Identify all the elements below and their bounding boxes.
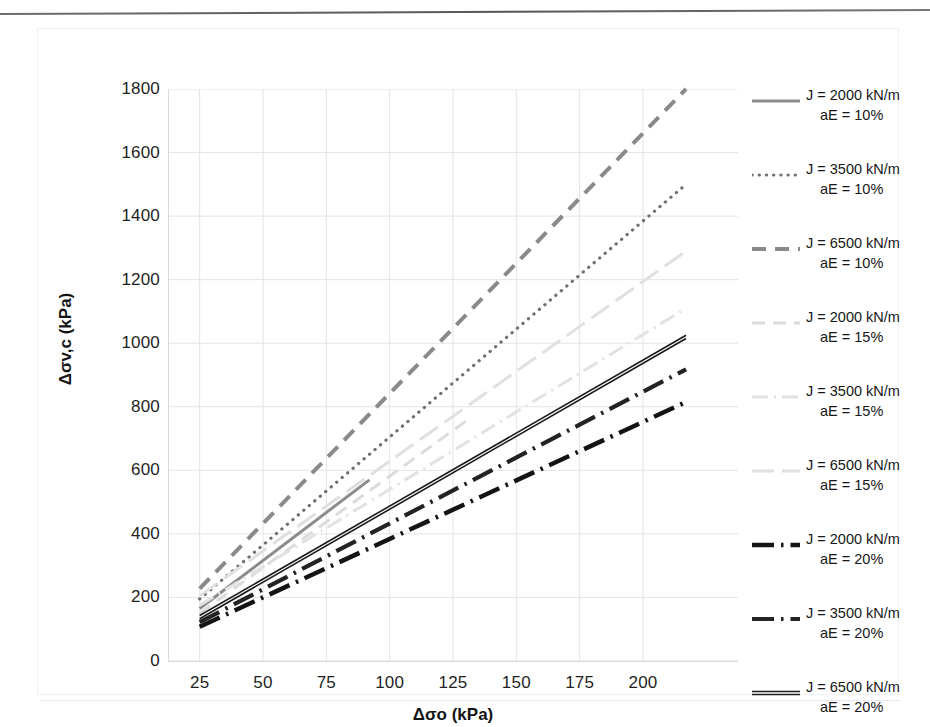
legend-label-line2: aE = 10% <box>806 180 930 200</box>
series-line <box>200 369 686 622</box>
series-line <box>200 184 686 599</box>
y-axis-tick-label: 800 <box>76 397 160 417</box>
legend-entry[interactable]: J = 6500 kN/maE = 20% <box>752 673 930 727</box>
y-axis-tick-label: 1200 <box>76 270 160 290</box>
x-axis-tick-label: 200 <box>613 673 673 693</box>
legend-label-line1: J = 6500 kN/m <box>806 234 930 254</box>
legend-label-line1: J = 3500 kN/m <box>806 604 930 624</box>
legend-entry[interactable]: J = 2000 kN/maE = 10% <box>752 81 930 155</box>
y-axis-tick-label: 0 <box>76 651 160 671</box>
y-axis-tick-label: 400 <box>76 524 160 544</box>
legend-label-line2: aE = 10% <box>806 254 930 274</box>
x-axis-tick-label: 100 <box>360 673 420 693</box>
legend-label-line1: J = 3500 kN/m <box>806 160 930 180</box>
x-axis-tick-label: 25 <box>170 673 230 693</box>
legend-swatch-icon <box>752 686 800 700</box>
legend-swatch-icon <box>752 612 800 626</box>
series-line <box>200 89 686 589</box>
legend-swatch-icon <box>752 538 800 552</box>
legend-entry[interactable]: J = 2000 kN/maE = 15% <box>752 303 930 377</box>
legend-label: J = 2000 kN/maE = 10% <box>806 86 930 125</box>
legend-label: J = 6500 kN/maE = 20% <box>806 678 930 717</box>
legend-label-line1: J = 6500 kN/m <box>806 456 930 476</box>
legend-label: J = 6500 kN/maE = 10% <box>806 234 930 273</box>
legend-swatch-icon <box>752 316 800 330</box>
legend-swatch-icon <box>752 242 800 256</box>
legend-label-line1: J = 2000 kN/m <box>806 308 930 328</box>
legend-label-line1: J = 3500 kN/m <box>806 382 930 402</box>
chart-frame: 020040060080010001200140016001800 Δσv,c … <box>37 28 899 695</box>
scan-artifact-top-line <box>0 9 930 15</box>
legend-swatch-icon <box>752 94 800 108</box>
x-axis-title: Δσo (kPa) <box>38 705 868 725</box>
legend-entry[interactable]: J = 6500 kN/maE = 15% <box>752 451 930 525</box>
series-line <box>200 251 686 596</box>
x-axis-tick-label: 150 <box>486 673 546 693</box>
y-axis-tick-label: 600 <box>76 460 160 480</box>
legend-label-line2: aE = 10% <box>806 106 930 126</box>
y-axis-title: Δσv,c (kPa) <box>56 239 76 439</box>
x-axis-tick-label: 50 <box>233 673 293 693</box>
series-line <box>200 335 686 615</box>
y-axis-tick-labels: 020040060080010001200140016001800 <box>72 29 160 727</box>
x-axis-line <box>168 661 738 662</box>
y-axis-tick-label: 1400 <box>76 206 160 226</box>
y-axis-tick-label: 1600 <box>76 143 160 163</box>
legend-swatch-icon <box>752 168 800 182</box>
legend-label-line2: aE = 20% <box>806 698 930 718</box>
y-axis-tick-label: 1800 <box>76 79 160 99</box>
legend-entry[interactable]: J = 6500 kN/maE = 10% <box>752 229 930 303</box>
legend-label: J = 3500 kN/maE = 10% <box>806 160 930 199</box>
x-axis-tick-label: 125 <box>423 673 483 693</box>
legend-label: J = 6500 kN/maE = 15% <box>806 456 930 495</box>
legend-label-line2: aE = 20% <box>806 550 930 570</box>
legend-label-line2: aE = 15% <box>806 328 930 348</box>
legend-swatch-icon <box>752 464 800 478</box>
plot-area <box>168 89 738 661</box>
legend-entry[interactable]: J = 3500 kN/maE = 10% <box>752 155 930 229</box>
legend-label-line1: J = 2000 kN/m <box>806 530 930 550</box>
x-axis-tick-label: 75 <box>296 673 356 693</box>
series-line <box>200 338 686 618</box>
x-axis-tick-label: 175 <box>550 673 610 693</box>
legend-label-line2: aE = 15% <box>806 402 930 422</box>
legend-label-line2: aE = 15% <box>806 476 930 496</box>
legend-swatch-icon <box>752 390 800 404</box>
legend-label: J = 3500 kN/maE = 20% <box>806 604 930 643</box>
y-axis-tick-label: 200 <box>76 587 160 607</box>
legend-label-line2: aE = 20% <box>806 624 930 644</box>
legend-entry[interactable]: J = 3500 kN/maE = 20% <box>752 599 930 673</box>
series-layer <box>168 89 738 661</box>
legend-label: J = 2000 kN/maE = 20% <box>806 530 930 569</box>
legend-entry[interactable]: J = 3500 kN/maE = 15% <box>752 377 930 451</box>
legend-label-line1: J = 2000 kN/m <box>806 86 930 106</box>
legend-entry[interactable]: J = 2000 kN/maE = 20% <box>752 525 930 599</box>
y-axis-tick-label: 1000 <box>76 333 160 353</box>
y-axis-line <box>168 89 169 661</box>
chart-legend: J = 2000 kN/maE = 10%J = 3500 kN/maE = 1… <box>752 81 930 727</box>
legend-label: J = 3500 kN/maE = 15% <box>806 382 930 421</box>
legend-label-line1: J = 6500 kN/m <box>806 678 930 698</box>
legend-label: J = 2000 kN/maE = 15% <box>806 308 930 347</box>
